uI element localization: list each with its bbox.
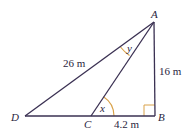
point-label-a: A [150, 8, 158, 20]
angle-arc-x [104, 97, 115, 116]
triangle-diagram: A B C D 26 m 16 m 4.2 m x y [0, 0, 187, 136]
length-label-cb: 4.2 m [114, 118, 140, 130]
point-label-c: C [84, 118, 92, 130]
right-angle-marker [144, 105, 155, 116]
angle-label-x: x [99, 102, 105, 114]
point-label-d: D [10, 111, 19, 123]
length-label-ad: 26 m [63, 57, 86, 69]
length-label-ab: 16 m [159, 65, 182, 77]
segment-AB [154, 22, 155, 116]
point-label-b: B [158, 111, 165, 123]
segment-AD [25, 22, 154, 116]
angle-label-y: y [126, 42, 132, 54]
